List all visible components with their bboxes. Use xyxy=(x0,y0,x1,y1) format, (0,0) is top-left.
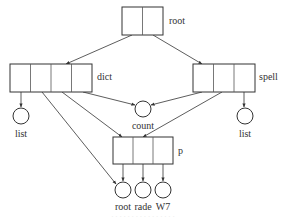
record-spell: spell xyxy=(193,64,278,92)
edge-dict-count xyxy=(83,92,135,105)
node-w7: W7 xyxy=(155,182,171,212)
pointer-diagram: root dict spell p list xyxy=(0,0,282,220)
record-dict-label: dict xyxy=(97,71,112,82)
edge-spell-count xyxy=(151,92,202,105)
edge-root-dict xyxy=(66,35,132,64)
record-root-label: root xyxy=(169,15,185,26)
record-spell-label: spell xyxy=(259,71,278,82)
node-count: count xyxy=(132,101,154,131)
figure-caption: · · · · · · · · · · · · · · · · xyxy=(111,213,175,220)
node-root-leaf-label: root xyxy=(115,201,131,212)
edge-root-spell xyxy=(153,35,202,64)
record-root: root xyxy=(122,7,185,35)
node-list-right: list xyxy=(237,108,253,139)
edge-dict-p xyxy=(62,92,122,137)
node-list-left-label: list xyxy=(15,128,27,139)
node-rade: rade xyxy=(134,182,152,212)
record-p: p xyxy=(113,137,183,164)
node-w7-label: W7 xyxy=(156,201,170,212)
edge-spell-p xyxy=(143,92,222,137)
node-count-label: count xyxy=(132,120,154,131)
node-rade-label: rade xyxy=(134,201,152,212)
record-dict: dict xyxy=(10,64,112,92)
node-root-leaf: root xyxy=(115,182,131,212)
record-p-label: p xyxy=(178,145,183,156)
node-list-right-label: list xyxy=(239,128,251,139)
node-list-left: list xyxy=(13,108,29,139)
edge-dict-root-leaf xyxy=(42,92,116,184)
